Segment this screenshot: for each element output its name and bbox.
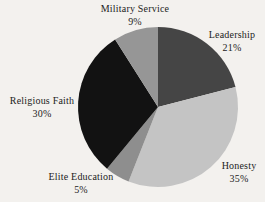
label-leadership-name: Leadership	[202, 28, 262, 41]
label-military-service-pct: 9%	[85, 15, 185, 28]
label-elite-education-name: Elite Education	[28, 170, 134, 183]
label-honesty-name: Honesty	[210, 159, 265, 172]
label-religious-faith: Religious Faith 30%	[2, 94, 82, 120]
label-religious-faith-pct: 30%	[2, 107, 82, 120]
label-military-service-name: Military Service	[85, 2, 185, 15]
label-leadership-pct: 21%	[202, 41, 262, 54]
label-honesty: Honesty 35%	[210, 159, 265, 185]
label-honesty-pct: 35%	[210, 172, 265, 185]
label-elite-education-pct: 5%	[28, 183, 134, 196]
label-leadership: Leadership 21%	[202, 28, 262, 54]
label-military-service: Military Service 9%	[85, 2, 185, 28]
label-religious-faith-name: Religious Faith	[2, 94, 82, 107]
label-elite-education: Elite Education 5%	[28, 170, 134, 196]
pie-chart-figure: Military Service 9% Leadership 21% Relig…	[0, 0, 265, 202]
